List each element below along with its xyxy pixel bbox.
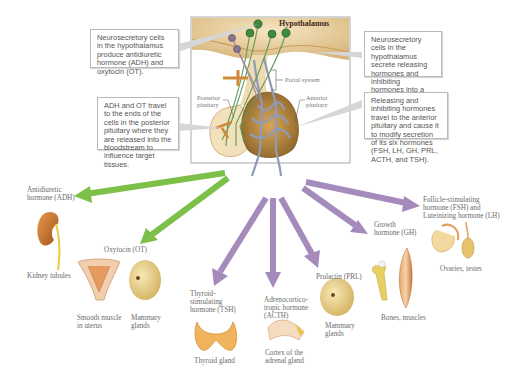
- hormone-label-adh: Antidiuretichormone (ADH): [27, 186, 75, 202]
- posterior-arrows: [74, 173, 228, 244]
- hormone-label-acth: Adrenocortico-tropic hormone(ACTH): [264, 296, 308, 321]
- target-label-uterus: Smooth musclein uterus: [77, 314, 122, 330]
- target-label-bones-muscles: Bones, muscles: [381, 314, 426, 322]
- thyroid-image: [195, 322, 237, 350]
- hormone-label-gh: Growthhormone (GH): [374, 221, 417, 237]
- callout-neurosecretory-releasing: Neurosecretory cells in the hypothalamus…: [364, 31, 442, 77]
- hypothalamus-label: Hypothalamus: [279, 19, 329, 28]
- target-label-adrenal: Cortex of theadrenal gland: [265, 349, 304, 365]
- target-label-thyroid: Thyroid gland: [194, 357, 235, 365]
- hormone-label-fsh-lh: Follicle-stimulatinghormone (FSH) andLut…: [423, 196, 500, 221]
- adrenal-image: [268, 320, 304, 340]
- uterus-image: [78, 259, 120, 300]
- bone-image: [372, 261, 387, 300]
- muscle-image: [399, 248, 412, 308]
- hormone-label-prl: Prolactin (PRL): [316, 273, 362, 281]
- target-label-mammary-ot: Mammaryglands: [131, 314, 161, 330]
- anterior-pituitary-label: Anterior pituitary: [306, 94, 336, 108]
- mammary-prl-image: [320, 278, 354, 316]
- target-label-gonads: Ovaries, testes: [440, 265, 482, 273]
- target-label-mammary-prl: Mammaryglands: [325, 322, 355, 338]
- gonads-image: [432, 222, 474, 258]
- hypothalamus-pituitary-diagram: Hypothalamus Portal system Posterior pit…: [0, 0, 517, 381]
- callout-adh-ot-travel: ADH and OT travel to the ends of the cel…: [97, 97, 179, 150]
- portal-system-label: Portal system: [285, 76, 320, 83]
- kidney-image: [38, 212, 60, 270]
- callout-neurosecretory-adh-ot: Neurosecretory cells in the hypothalamus…: [90, 29, 179, 68]
- hormone-label-tsh: Thyroid-stimulatinghormone (TSH): [190, 290, 236, 315]
- mammary-ot-image: [129, 260, 161, 300]
- callout-releasing-travel: Releasing and inhibiting hormones travel…: [364, 92, 448, 139]
- target-label-kidney: Kidney tubules: [27, 272, 71, 280]
- hormone-label-ot: Oxytocin (OT): [104, 246, 147, 254]
- posterior-pituitary-label: Posterior pituitary: [197, 94, 227, 108]
